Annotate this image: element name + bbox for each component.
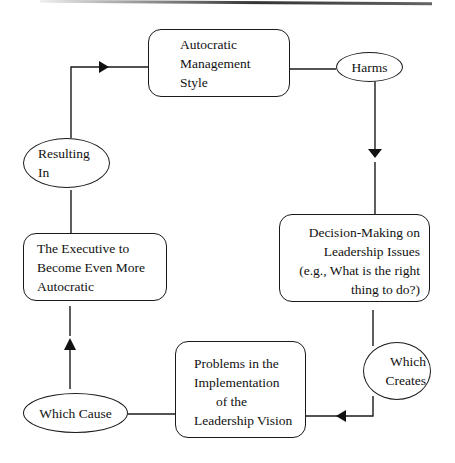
node-text-line: In (38, 163, 49, 182)
node-text-line: The Executive to (37, 239, 166, 258)
node-text-line: Creates (386, 371, 426, 390)
arrow-left-icon (336, 410, 346, 422)
node-text-line: Which (390, 352, 426, 371)
node-text-line: Implementation (194, 373, 305, 392)
node-text-line: Harms (352, 58, 388, 77)
node-text-line: thing to do?) (280, 280, 420, 299)
node-text-line: Problems in the (194, 354, 305, 373)
node-executive-more-autocratic: The Executive to Become Even More Autocr… (23, 233, 167, 301)
node-which-cause: Which Cause (23, 393, 128, 433)
node-problems-implementation: Problems in the Implementation of the Le… (175, 341, 306, 438)
node-autocratic-management-style: Autocratic Management Style (148, 29, 290, 97)
node-text-line: Autocratic (180, 35, 289, 54)
edge-creates-problems (306, 396, 373, 416)
node-resulting-in: Resulting In (23, 138, 110, 188)
node-decision-making: Decision-Making on Leadership Issues (e.… (279, 214, 430, 302)
node-text-line: (e.g., What is the right (280, 261, 420, 280)
node-harms: Harms (336, 52, 403, 82)
arrow-up-icon (64, 338, 76, 350)
node-text-line: Leadership Vision (194, 411, 305, 430)
edge-resulting-autocratic (71, 67, 148, 138)
node-text-line: of the (194, 392, 305, 411)
arrow-right-icon (99, 61, 109, 73)
node-which-creates: Which Creates (363, 342, 431, 400)
node-text-line: Management (180, 54, 289, 73)
node-text-line: Become Even More (37, 258, 166, 277)
node-text-line: Leadership Issues (280, 242, 420, 261)
node-text-line: Decision-Making on (280, 223, 420, 242)
node-text-line: Autocratic (37, 277, 166, 296)
arrow-down-icon (368, 149, 382, 158)
node-text-line: Style (180, 73, 289, 92)
node-text-line: Resulting (38, 144, 90, 163)
node-text-line: Which Cause (39, 404, 111, 423)
